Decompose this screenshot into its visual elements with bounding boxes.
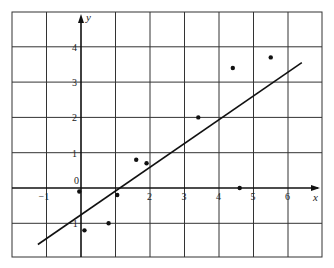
y-tick-label: 0 [74,175,79,186]
x-tick-label: 6 [285,191,290,202]
x-tick-label: −1 [39,191,50,202]
x-tick-label: 3 [182,191,187,202]
data-point [269,55,273,59]
data-point [115,193,119,197]
y-tick-label: −1 [67,218,78,229]
data-point [82,228,86,232]
data-point [77,189,81,193]
data-point [144,161,148,165]
y-tick-label: 1 [72,148,77,159]
y-tick-label: 2 [72,112,77,123]
x-tick-label: 4 [216,191,221,202]
y-axis-label: y [85,11,91,23]
y-tick-label: 3 [72,77,77,88]
x-tick-label: 2 [147,191,152,202]
grid-lines [12,12,322,257]
fitted-line [38,63,302,245]
y-tick-label: 4 [72,42,77,53]
plot-border [12,12,322,257]
y-axis-arrow-icon [78,14,84,23]
x-tick-label: 5 [251,191,256,202]
data-point [231,66,235,70]
data-point [196,115,200,119]
data-point [134,158,138,162]
axes [12,14,320,257]
scatter-chart: −1234560−11234xy [0,0,334,268]
data-point [238,186,242,190]
regression-line [38,63,302,245]
x-axis-label: x [312,191,318,203]
data-point [106,221,110,225]
